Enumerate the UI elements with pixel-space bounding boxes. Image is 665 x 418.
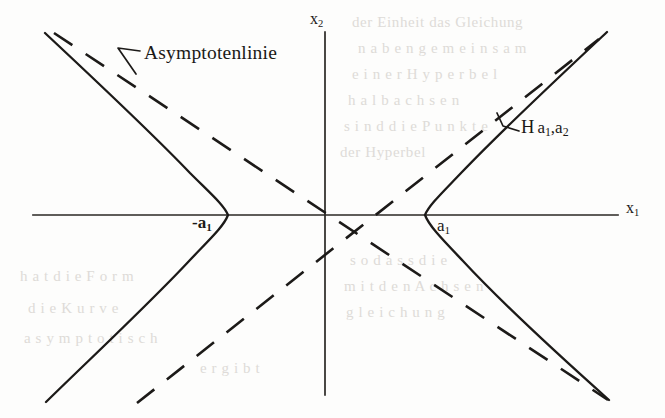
asymptote-label: Asymptotenlinie xyxy=(144,42,277,64)
figure-canvas: der Einheit das Gleichungn a b e n g e m… xyxy=(0,0,665,418)
x2-axis-label-sub: 2 xyxy=(318,18,323,29)
hyperbola-label-sub-2: 2 xyxy=(563,125,569,139)
x2-axis-label-main: x xyxy=(310,10,318,27)
vertex-label-neg-a1-sub: 1 xyxy=(206,221,212,233)
asymptote-line-negative-slope xyxy=(54,33,608,400)
vertex-label-a1: a1 xyxy=(437,216,450,236)
hyperbola-figure xyxy=(0,0,665,418)
x1-axis-label-sub: 1 xyxy=(634,207,639,218)
vertex-label-a1-main: a xyxy=(437,216,445,235)
hyperbola-label-h: H xyxy=(521,117,534,137)
vertex-label-neg-a1: -a1 xyxy=(192,213,212,233)
x2-axis-label: x2 xyxy=(310,10,323,29)
hyperbola-label-a: a xyxy=(537,118,545,137)
x1-axis-label-main: x xyxy=(626,199,634,216)
vertex-label-neg-a1-main: -a xyxy=(192,213,206,232)
vertex-label-a1-sub: 1 xyxy=(445,224,451,236)
hyperbola-right-branch xyxy=(425,32,609,400)
x1-axis-label: x1 xyxy=(626,199,639,218)
hyperbola-label: Ha1,a2 xyxy=(521,117,569,140)
hyperbola-label-comma-a: ,a xyxy=(551,118,563,137)
asymptotenlinie-leader-line xyxy=(118,48,140,74)
